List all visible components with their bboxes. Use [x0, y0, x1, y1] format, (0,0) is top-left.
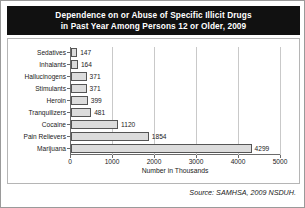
y-axis-tick — [67, 76, 70, 77]
category-label: Pain Relievers — [23, 131, 66, 143]
bar-value-label: 147 — [77, 47, 91, 59]
bar-value-label: 371 — [87, 83, 101, 95]
bar — [71, 144, 252, 153]
category-label: Cocaine — [42, 119, 66, 131]
chart-plot-frame: Sedatives147Inhalants164Hallucinogens371… — [7, 38, 300, 184]
gridline — [280, 47, 281, 155]
bar — [71, 132, 149, 141]
chart-title-line-1: Dependence on or Abuse of Specific Illic… — [55, 10, 251, 21]
x-axis-tick-label: 2000 — [147, 158, 162, 165]
category-label: Sedatives — [37, 47, 66, 59]
category-label: Heroin — [47, 95, 66, 107]
bar — [71, 60, 78, 69]
x-axis-title: Number in Thousands — [70, 167, 280, 174]
category-label: Inhalants — [39, 59, 66, 71]
bar-value-label: 399 — [88, 95, 102, 107]
chart-title-banner: Dependence on or Abuse of Specific Illic… — [7, 6, 300, 35]
y-axis-tick — [67, 52, 70, 53]
bar-value-label: 1120 — [118, 119, 135, 131]
bar-row: Cocaine1120 — [70, 119, 280, 131]
bar — [71, 108, 91, 117]
chart-figure: Dependence on or Abuse of Specific Illic… — [0, 0, 305, 208]
y-axis-tick — [67, 136, 70, 137]
bar-row: Marijuana4299 — [70, 143, 280, 155]
bar-value-label: 4299 — [252, 143, 270, 155]
chart-title-line-2: in Past Year Among Persons 12 or Older, … — [61, 21, 247, 32]
x-axis-tick-label: 5000 — [273, 158, 288, 165]
bar-row: Hallucinogens371 — [70, 71, 280, 83]
bar-value-label: 371 — [87, 71, 101, 83]
x-axis-tick-label: 3000 — [189, 158, 204, 165]
bar — [71, 120, 118, 129]
category-label: Marijuana — [37, 143, 66, 155]
y-axis-tick — [67, 148, 70, 149]
y-axis-tick — [67, 64, 70, 65]
bar — [71, 84, 87, 93]
bar — [71, 72, 87, 81]
x-axis-tick-label: 0 — [68, 158, 72, 165]
category-label: Tranquilizers — [29, 107, 67, 119]
y-axis-tick — [67, 112, 70, 113]
bar-row: Sedatives147 — [70, 47, 280, 59]
plot-area: Sedatives147Inhalants164Hallucinogens371… — [70, 47, 280, 155]
bar-row: Stimulants371 — [70, 83, 280, 95]
y-axis-tick — [67, 100, 70, 101]
bar-value-label: 164 — [78, 59, 92, 71]
bar-row: Pain Relievers1854 — [70, 131, 280, 143]
bar — [71, 96, 88, 105]
bar-row: Inhalants164 — [70, 59, 280, 71]
x-axis-ticks: 010002000300040005000 — [70, 155, 280, 167]
category-label: Stimulants — [35, 83, 66, 95]
y-axis-tick — [67, 88, 70, 89]
source-note: Source: SAMHSA, 2009 NSDUH. — [1, 188, 296, 197]
category-label: Hallucinogens — [25, 71, 66, 83]
bar-row: Heroin399 — [70, 95, 280, 107]
bar-value-label: 1854 — [149, 131, 167, 143]
bar-row: Tranquilizers481 — [70, 107, 280, 119]
y-axis-tick — [67, 124, 70, 125]
x-axis-tick-label: 4000 — [231, 158, 246, 165]
bar-value-label: 481 — [91, 107, 105, 119]
x-axis-tick-label: 1000 — [105, 158, 120, 165]
